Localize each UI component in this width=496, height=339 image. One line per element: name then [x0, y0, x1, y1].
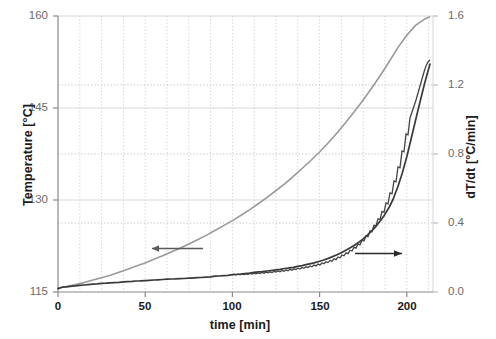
right-axis-ticks	[433, 16, 438, 292]
x-axis-ticks	[58, 292, 407, 297]
y-axis-left-title: Temperature [°C]	[21, 80, 35, 230]
right-tick-1-6: 1.6	[448, 9, 488, 21]
x-tick-100: 100	[210, 300, 254, 312]
x-tick-0: 0	[36, 300, 80, 312]
right-tick-0-0: 0.0	[448, 285, 488, 297]
x-tick-50: 50	[123, 300, 167, 312]
chart-plot-area	[0, 0, 496, 339]
x-axis-title: time [min]	[150, 318, 330, 332]
left-tick-160: 160	[10, 9, 48, 21]
chart-container: 160 145 130 115 1.6 1.2 0.8 0.4 0.0 0 50…	[0, 0, 496, 339]
left-axis-ticks	[53, 16, 58, 292]
y-axis-right-title: dT/dt [°C/min]	[464, 82, 478, 232]
x-tick-150: 150	[298, 300, 342, 312]
left-tick-115: 115	[10, 285, 48, 297]
x-tick-200: 200	[385, 300, 429, 312]
